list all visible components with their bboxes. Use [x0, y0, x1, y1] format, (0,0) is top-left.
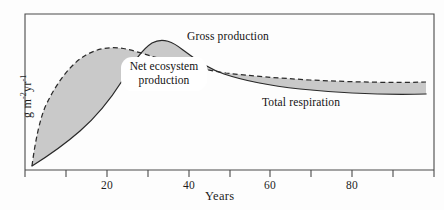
x-tick-label-60: 60: [256, 179, 284, 191]
net-ecosystem-production-callout: Net ecosystem production: [121, 57, 207, 91]
y-axis-title: g m-2yr-1: [20, 75, 35, 119]
total-respiration-label: Total respiration: [262, 96, 340, 108]
x-tick-label-40: 40: [175, 179, 203, 191]
x-axis-ticks: [25, 170, 434, 177]
net-production-label-line2: production: [128, 74, 200, 88]
net-production-label-line1: Net ecosystem: [128, 60, 200, 74]
y-axis-exponent-2: -1: [19, 75, 28, 82]
x-axis-title: Years: [205, 189, 234, 204]
y-axis-title-mid: yr: [20, 82, 34, 92]
x-tick-label-80: 80: [338, 179, 366, 191]
ecosystem-production-figure: g m-2yr-1 20 40 60 80 Years Gross produc…: [0, 0, 444, 210]
y-axis-title-prefix: g m: [20, 99, 34, 118]
gross-production-label: Gross production: [187, 30, 269, 42]
x-tick-label-20: 20: [93, 179, 121, 191]
net-production-band: [32, 40, 426, 166]
y-axis-exponent-1: -2: [19, 92, 28, 99]
